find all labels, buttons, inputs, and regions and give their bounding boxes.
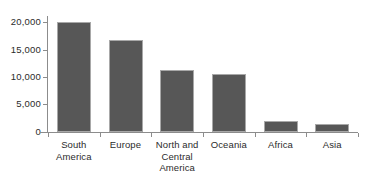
bar [57, 22, 91, 132]
x-axis-category-label: Asia [302, 139, 362, 151]
y-axis-labels: 05,00010,00015,00020,000 [0, 0, 41, 181]
y-axis-tick-label: 5,000 [0, 99, 41, 109]
x-axis-tick [358, 133, 359, 137]
x-axis-tick [151, 133, 152, 137]
x-axis-line [40, 132, 358, 133]
x-axis-labels: SouthAmericaEuropeNorth andCentralAmeric… [48, 139, 358, 181]
bar-chart: 05,00010,00015,00020,000 SouthAmericaEur… [0, 0, 371, 181]
x-axis-label-line: Asia [302, 139, 362, 151]
x-axis-tick [100, 133, 101, 137]
bar [264, 121, 298, 132]
y-axis-tick-label: 15,000 [0, 45, 41, 55]
x-axis-tick [255, 133, 256, 137]
x-axis-tick [48, 133, 49, 137]
x-axis-label-line: Central [147, 151, 207, 163]
x-axis-label-line: America [44, 151, 104, 163]
x-axis-tick [306, 133, 307, 137]
y-axis-tick-label: 10,000 [0, 72, 41, 82]
bar [315, 124, 349, 132]
bars-layer [48, 12, 358, 132]
bar [160, 70, 194, 132]
y-axis-tick-label: 0 [0, 127, 41, 137]
bar [212, 74, 246, 132]
x-axis-tick [203, 133, 204, 137]
x-axis-label-line: America [147, 162, 207, 174]
bar [109, 40, 143, 132]
y-axis-tick-label: 20,000 [0, 17, 41, 27]
